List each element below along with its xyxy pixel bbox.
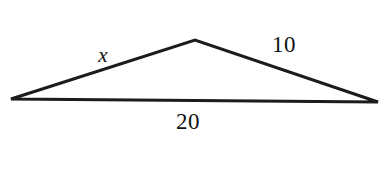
triangle-outline (11, 40, 378, 102)
side-label-10: 10 (272, 33, 296, 56)
side-label-20: 20 (176, 110, 200, 133)
geometry-figure: x 10 20 (0, 0, 387, 180)
side-label-x: x (98, 45, 108, 66)
triangle-drawing (0, 0, 387, 180)
